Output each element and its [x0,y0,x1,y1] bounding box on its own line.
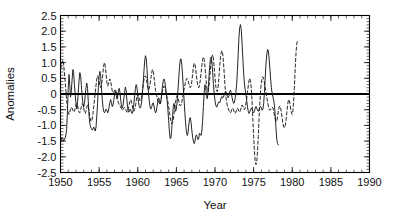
y-axis-title: Anomalies [4,67,16,121]
y-tick-label: 1.5 [41,41,56,53]
y-tick-label: 0 [50,88,56,100]
x-tick-label: 1990 [357,176,381,188]
chart-figure: 195019551960196519701975198019851990 -2.… [0,0,398,224]
y-tick-label: 0.5 [41,72,56,84]
y-tick-label: -1.5 [38,135,57,147]
y-tick-label: -2.0 [38,151,57,163]
series-solid-line [61,25,279,145]
x-tick-label: 1970 [203,176,227,188]
y-tick-label: -2.5 [38,167,57,179]
x-tick-label: 1965 [164,176,188,188]
x-tick-label: 1960 [126,176,150,188]
y-tick-label: -0.5 [38,104,57,116]
y-tick-label: 1.0 [41,57,56,69]
x-tick-label: 1975 [241,176,265,188]
x-axis-title: Year [203,199,226,211]
x-axis-tick-labels: 195019551960196519701975198019851990 [48,176,381,188]
y-tick-label: 2.0 [41,25,56,37]
x-tick-label: 1980 [280,176,304,188]
x-tick-label: 1955 [87,176,111,188]
y-axis-tick-labels: -2.5-2.0-1.5-1.0-0.500.51.01.52.02.5 [38,10,57,179]
series-dashed-line [61,40,298,165]
x-tick-label: 1985 [319,176,343,188]
y-tick-label: -1.0 [38,119,57,131]
y-tick-label: 2.5 [41,10,56,22]
anomalies-line-chart: 195019551960196519701975198019851990 -2.… [0,0,398,224]
